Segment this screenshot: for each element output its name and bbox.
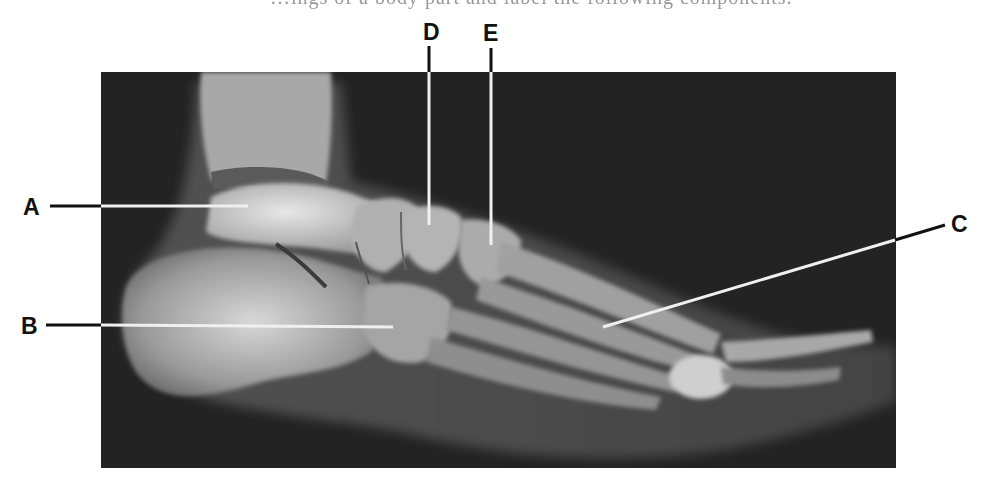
label-d: D [423, 21, 440, 44]
label-c: C [951, 213, 968, 236]
pointer-line-c-outer [895, 225, 945, 240]
xray-artwork [101, 72, 896, 468]
label-b: B [21, 315, 38, 338]
label-e: E [483, 22, 498, 45]
foot-xray-image [101, 72, 896, 468]
label-a: A [23, 196, 40, 219]
cropped-caption-text: …ings of a body part and label the follo… [270, 0, 790, 6]
